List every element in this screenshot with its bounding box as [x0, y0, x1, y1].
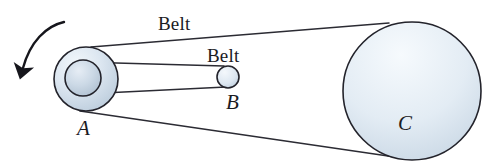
pulley-a-inner-sheave [65, 60, 101, 96]
pulley-b-label: B [226, 92, 239, 113]
rotation-arrow-path [23, 22, 64, 68]
pulley-b [217, 66, 239, 88]
pulley-b-rim [217, 66, 239, 88]
rotation-arrow-icon [23, 22, 64, 68]
figure-canvas [0, 0, 503, 166]
pulley-c [343, 22, 481, 160]
belt-label-top: Belt [158, 14, 190, 33]
pulley-c-label: C [398, 113, 412, 134]
pulley-a [54, 47, 118, 111]
belt-label-middle: Belt [207, 46, 239, 65]
pulley-c-rim [343, 22, 481, 160]
belt-a-to-c-upper-strand [91, 23, 389, 47]
pulley-a-label: A [77, 118, 90, 139]
pulley-belt-figure: Belt Belt A B C [0, 0, 503, 166]
